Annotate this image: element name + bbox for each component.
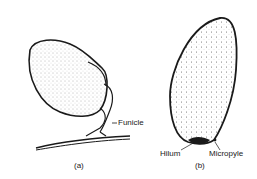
caption-a: (a)	[74, 162, 84, 170]
panel-b-seed	[170, 18, 237, 150]
label-hilum: Hilum	[160, 150, 180, 158]
caption-b: (b)	[195, 162, 205, 170]
seed-ovule-diagram: Funicle (a) Hilum Micropyle (b)	[0, 0, 257, 179]
panel-a-ovule	[29, 40, 130, 150]
label-funicle: Funicle	[118, 119, 144, 127]
label-micropyle: Micropyle	[209, 150, 243, 158]
